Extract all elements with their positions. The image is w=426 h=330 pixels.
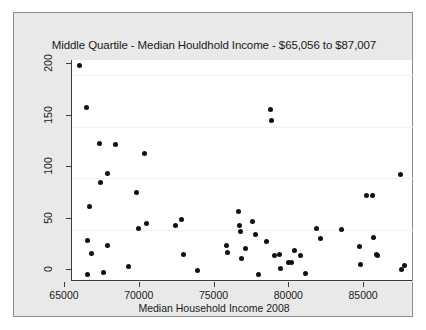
data-point	[371, 235, 376, 240]
data-point	[269, 118, 274, 123]
data-point	[225, 250, 230, 255]
plot-area	[71, 60, 412, 281]
data-point	[399, 267, 404, 272]
x-tick-mark	[214, 282, 215, 287]
chart-figure: Middle Quartile - Median Houldhold Incom…	[13, 12, 413, 317]
data-point	[105, 171, 110, 176]
data-point	[292, 248, 297, 253]
data-point	[398, 172, 403, 177]
x-tick-mark	[139, 282, 140, 287]
data-point	[85, 272, 90, 277]
data-point	[370, 193, 375, 198]
data-point	[268, 107, 273, 112]
data-point	[289, 260, 294, 265]
data-point	[238, 229, 243, 234]
x-tick-label: 85000	[348, 289, 377, 301]
y-tick-label: 0	[42, 266, 54, 272]
gridline-horizontal	[72, 127, 413, 128]
x-tick-mark	[64, 282, 65, 287]
data-point	[113, 142, 118, 147]
screenshot-root: Middle Quartile - Median Houldhold Incom…	[0, 0, 426, 330]
data-point	[195, 268, 200, 273]
data-point	[142, 151, 147, 156]
y-tick-label: 100	[42, 157, 54, 175]
data-point	[402, 263, 407, 268]
y-tick-label: 50	[42, 212, 54, 224]
data-point	[134, 190, 139, 195]
data-point	[173, 223, 178, 228]
gridline-horizontal	[72, 281, 413, 282]
data-point	[357, 244, 362, 249]
x-tick-label: 65000	[49, 289, 78, 301]
data-point	[298, 253, 303, 258]
data-point	[105, 243, 110, 248]
data-point	[318, 236, 323, 241]
data-point	[239, 256, 244, 261]
chart-title: Middle Quartile - Median Houldhold Incom…	[14, 39, 414, 51]
data-point	[126, 264, 131, 269]
data-point	[98, 180, 103, 185]
data-point	[224, 243, 229, 248]
data-point	[89, 251, 94, 256]
data-point	[236, 209, 241, 214]
data-point	[179, 217, 184, 222]
data-point	[253, 232, 258, 237]
y-tick-mark	[66, 115, 71, 116]
x-tick-label: 70000	[124, 289, 153, 301]
y-tick-mark	[66, 269, 71, 270]
x-tick-mark	[363, 282, 364, 287]
data-point	[375, 253, 380, 258]
y-tick-mark	[66, 63, 71, 64]
data-point	[237, 223, 242, 228]
data-point	[339, 227, 344, 232]
data-point	[256, 272, 261, 277]
data-point	[250, 219, 255, 224]
x-tick-label: 80000	[274, 289, 303, 301]
data-point	[101, 270, 106, 275]
data-point	[243, 246, 248, 251]
data-point	[87, 204, 92, 209]
y-tick-label: 150	[42, 106, 54, 124]
data-point	[264, 239, 269, 244]
x-axis-title: Median Household Income 2008	[14, 302, 414, 314]
data-point	[84, 105, 89, 110]
gridline-horizontal	[72, 75, 413, 76]
data-point	[303, 271, 308, 276]
y-tick-mark	[66, 218, 71, 219]
data-point	[85, 238, 90, 243]
data-point	[364, 193, 369, 198]
gridline-horizontal	[72, 178, 413, 179]
y-tick-mark	[66, 166, 71, 167]
data-point	[358, 262, 363, 267]
data-point	[97, 141, 102, 146]
data-point	[278, 266, 283, 271]
x-tick-label: 75000	[199, 289, 228, 301]
data-point	[277, 252, 282, 257]
x-tick-mark	[288, 282, 289, 287]
data-point	[77, 63, 82, 68]
data-point	[144, 221, 149, 226]
y-tick-label: 200	[42, 55, 54, 73]
data-point	[181, 252, 186, 257]
